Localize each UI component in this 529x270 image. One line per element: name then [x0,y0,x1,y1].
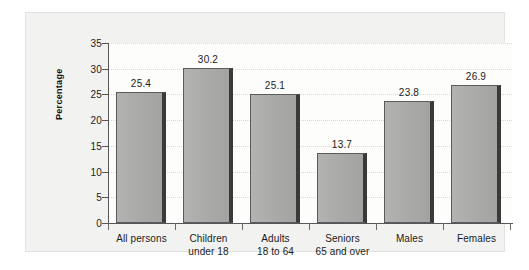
y-tick-label-25: 25 [90,89,102,100]
bar-value-label-2: 25.1 [265,80,285,91]
y-tick-label-20: 20 [90,115,102,126]
y-tick-label-35: 35 [90,38,102,49]
bar-males[interactable] [384,101,434,223]
category-label-line2-1: under 18 [175,246,242,259]
x-tick-mark-5 [443,223,444,230]
x-tick-mark-2 [242,223,243,230]
x-axis-line [108,223,513,224]
category-label-all-persons: All persons [108,233,175,246]
y-tick-mark-30 [102,69,108,70]
bar-group-0: 25.4 [116,43,166,223]
bar-females[interactable] [451,85,501,223]
category-label-line1-5: Females [457,233,496,244]
y-tick-label-10: 10 [90,166,102,177]
bar-seniors-65-and-over[interactable] [317,153,367,223]
y-tick-mark-5 [102,197,108,198]
x-tick-mark-6 [510,223,511,230]
bar-value-label-5: 26.9 [466,71,486,82]
bar-value-label-0: 25.4 [131,78,151,89]
y-tick-mark-10 [102,172,108,173]
x-tick-mark-4 [376,223,377,230]
bar-group-4: 23.8 [384,43,434,223]
y-tick-mark-20 [102,120,108,121]
bar-adults-18-to-64[interactable] [250,94,300,223]
bar-value-label-1: 30.2 [198,54,218,65]
y-tick-label-0: 0 [96,218,102,229]
x-tick-mark-0 [108,223,109,230]
category-label-children-under-18: Children under 18 [175,233,242,258]
category-label-seniors-65-and-over: Seniors 65 and over [309,233,376,258]
category-label-line2-3: 65 and over [309,246,376,259]
y-tick-mark-35 [102,43,108,44]
y-tick-mark-15 [102,146,108,147]
y-tick-mark-25 [102,94,108,95]
bar-value-label-3: 13.7 [332,139,352,150]
bar-value-label-4: 23.8 [399,87,419,98]
category-label-line1-3: Seniors [325,233,360,244]
chart-screenshot: 25.4 30.2 25.1 13.7 23.8 26.9 [0,0,529,270]
bar-children-under-18[interactable] [183,68,233,223]
bar-group-3: 13.7 [317,43,367,223]
x-tick-mark-1 [175,223,176,230]
category-label-line1-2: Adults [261,233,289,244]
category-label-males: Males [376,233,443,246]
y-axis-tick-labels: 35 30 25 20 15 10 5 0 [78,43,102,223]
y-axis-title: Percentage [54,106,64,120]
y-tick-label-15: 15 [90,140,102,151]
bar-all-persons[interactable] [116,92,166,223]
bar-group-1: 30.2 [183,43,233,223]
category-label-line1-1: Children [189,233,227,244]
bars-layer: 25.4 30.2 25.1 13.7 23.8 26.9 [108,43,512,223]
y-tick-label-5: 5 [96,192,102,203]
y-axis-line [108,43,109,224]
x-tick-mark-3 [309,223,310,230]
y-tick-label-30: 30 [90,63,102,74]
category-label-females: Females [443,233,510,246]
category-label-line1-0: All persons [116,233,167,244]
figure-panel: 25.4 30.2 25.1 13.7 23.8 26.9 [25,12,505,252]
category-label-line2-2: 18 to 64 [242,246,309,259]
category-label-line1-4: Males [396,233,423,244]
bar-group-5: 26.9 [451,43,501,223]
category-label-adults-18-to-64: Adults 18 to 64 [242,233,309,258]
bar-group-2: 25.1 [250,43,300,223]
